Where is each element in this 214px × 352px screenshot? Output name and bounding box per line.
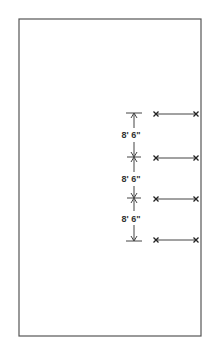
row-lines (154, 112, 199, 243)
dimension-label: 8' 6" (122, 174, 141, 184)
dimension-labels: 8' 6" 8' 6" 8' 6" (122, 130, 141, 224)
dimension-label: 8' 6" (122, 130, 141, 140)
row-line-4 (154, 238, 199, 243)
frame-border (19, 19, 201, 336)
dimension-label: 8' 6" (122, 214, 141, 224)
row-line-2 (154, 156, 199, 161)
row-line-3 (154, 197, 199, 202)
diagram-canvas: 8' 6" 8' 6" 8' 6" (0, 0, 214, 352)
row-line-1 (154, 112, 199, 117)
